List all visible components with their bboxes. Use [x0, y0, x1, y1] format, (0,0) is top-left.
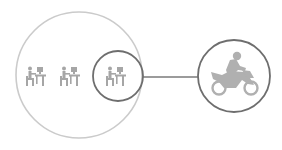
motorcycle-rider-icon: [211, 52, 258, 95]
diagram-canvas: [0, 0, 282, 150]
desk-worker-icon: [60, 67, 80, 87]
desk-worker-icon: [106, 67, 126, 87]
desk-worker-icon: [26, 67, 46, 87]
diagram: [0, 0, 282, 150]
